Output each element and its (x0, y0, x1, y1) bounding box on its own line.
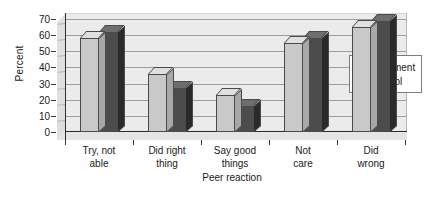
gridline (65, 19, 407, 20)
bar-treatment (216, 95, 235, 132)
bar-front-face (352, 27, 371, 132)
bar-side-face (186, 82, 193, 132)
bar-treatment (284, 43, 303, 132)
y-axis-tick-mark (51, 84, 56, 85)
y-axis-tick-label: 30 (20, 78, 50, 89)
x-axis-label: Peer reaction (57, 172, 407, 183)
bar-front-face (148, 74, 167, 132)
x-axis-category-label: Say goodthings (199, 145, 271, 170)
bar-side-face (371, 21, 378, 132)
x-axis-category-label-line2: things (199, 158, 271, 171)
x-axis-category-label-line2: thing (131, 158, 203, 171)
y-axis-tick-mark (51, 19, 56, 20)
y-axis-tick-label: 70 (20, 14, 50, 25)
bar-side-face (390, 14, 397, 132)
x-axis-category-label-line2: wrong (335, 158, 407, 171)
x-axis-ticks (57, 132, 407, 144)
bar-front-face (284, 43, 303, 132)
bar-treatment (352, 27, 371, 132)
y-axis-tick-mark (51, 35, 56, 36)
y-axis-tick-label: 60 (20, 30, 50, 41)
bar-chart-figure: Percent 010203040506070 Try, notableDid … (0, 0, 438, 200)
y-axis-tick-mark (51, 67, 56, 68)
bar-front-face (80, 38, 99, 132)
bar-side-face (118, 26, 125, 132)
x-axis-category-label: Try, notable (63, 145, 135, 170)
x-axis-category-label: Notcare (267, 145, 339, 170)
y-axis-tick-label: 50 (20, 46, 50, 57)
x-axis-category-label-line2: care (267, 158, 339, 171)
y-axis-tick-label: 10 (20, 110, 50, 121)
bar-side-face (303, 37, 310, 132)
y-axis-tick-label: 40 (20, 62, 50, 73)
plot-area (57, 13, 407, 140)
bar-side-face (167, 68, 174, 132)
x-axis-category-label-line2: able (63, 158, 135, 171)
y-axis-tick-mark (51, 132, 56, 133)
bar-side-face (99, 32, 106, 132)
bar-side-face (235, 89, 242, 132)
y-axis-tick-mark (51, 51, 56, 52)
y-axis-tick-label: 0 (20, 127, 50, 138)
bar-treatment (80, 38, 99, 132)
y-axis-tick-mark (51, 116, 56, 117)
x-axis-category-label: Didwrong (335, 145, 407, 170)
x-axis-category-label: Did rightthing (131, 145, 203, 170)
y-axis-line (65, 13, 66, 140)
bar-side-face (322, 32, 329, 132)
bar-front-face (216, 95, 235, 132)
y-axis-tick-label: 20 (20, 94, 50, 105)
y-axis-tick-mark (51, 100, 56, 101)
y-axis-ticks: 010203040506070 (0, 0, 62, 200)
bar-treatment (148, 74, 167, 132)
